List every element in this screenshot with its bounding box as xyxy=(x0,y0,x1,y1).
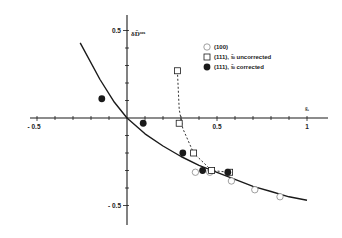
x-tick-label: - 0.5 xyxy=(27,123,40,130)
filled-circle-marker xyxy=(179,150,186,157)
x-axis-title: s̃ᵢ xyxy=(305,105,310,113)
x-tick-label: 0.5 xyxy=(212,123,221,130)
legend-open-square-icon xyxy=(204,54,210,60)
legend: (100)(111), s̃ᵢ uncorrected(111), s̃ᵢ co… xyxy=(204,44,272,71)
y-tick-label: - 0.5 xyxy=(108,202,121,209)
open-circle-marker xyxy=(192,169,198,175)
filled-circle-marker xyxy=(140,120,147,127)
open-circle-marker xyxy=(252,187,258,193)
curves xyxy=(80,43,307,201)
y-tick-label: 0.5 xyxy=(112,27,121,34)
legend-label: (100) xyxy=(214,44,228,50)
data-points xyxy=(98,68,283,200)
open-square-marker xyxy=(191,150,197,156)
legend-label: (111), s̃ᵢ uncorrected xyxy=(214,54,272,60)
open-square-marker xyxy=(209,168,215,174)
fit-curve xyxy=(80,43,307,201)
dashed-curve xyxy=(177,71,229,173)
legend-filled-circle-icon xyxy=(204,64,211,71)
open-square-marker xyxy=(176,120,182,126)
x-tick-label: 1 xyxy=(305,123,309,130)
filled-circle-marker xyxy=(98,95,105,102)
open-circle-marker xyxy=(277,194,283,200)
legend-label: (111), s̃ᵢ corrected xyxy=(214,64,264,70)
legend-open-circle-icon xyxy=(204,44,210,50)
open-square-marker xyxy=(174,68,180,74)
filled-circle-marker xyxy=(224,169,231,176)
filled-circle-marker xyxy=(199,167,206,174)
open-circle-marker xyxy=(228,178,234,184)
chart-canvas: - 0.50.510.5- 0.5s̃ᵢδD̃ˢᵒˣ (100)(111), s… xyxy=(0,0,342,238)
y-axis-title: δD̃ˢᵒˣ xyxy=(131,30,146,38)
